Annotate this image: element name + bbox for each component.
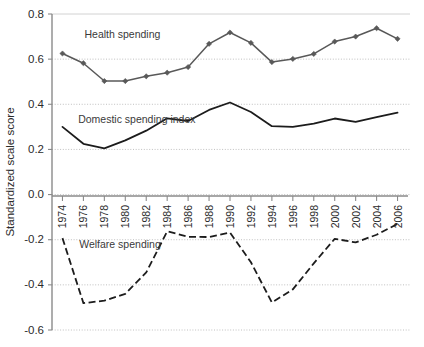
- y-axis-title: Standardized scale score: [4, 107, 16, 236]
- data-point-health-spending-2002: [353, 34, 358, 39]
- x-tick-label-1988: 1988: [203, 205, 215, 229]
- data-point-health-spending-1982: [144, 74, 149, 79]
- data-point-health-spending-1984: [165, 70, 170, 75]
- x-tick-label-1994: 1994: [266, 205, 278, 229]
- x-tick-label-2004: 2004: [371, 205, 383, 229]
- line-chart-figure: 0.80.60.40.20.0-0.2-0.4-0.6 197419761978…: [0, 0, 424, 347]
- y-tick-label--0.4: -0.4: [24, 278, 44, 290]
- gridlines-group: [52, 14, 410, 330]
- x-tick-label-2000: 2000: [329, 205, 341, 229]
- x-tick-label-1980: 1980: [119, 205, 131, 229]
- y-tick-labels-group: 0.80.60.40.20.0-0.2-0.4-0.6: [24, 8, 44, 336]
- series-label-health-spending: Health spending: [84, 28, 160, 40]
- x-tick-label-2002: 2002: [350, 205, 362, 229]
- x-tick-label-1998: 1998: [308, 205, 320, 229]
- x-tick-label-1982: 1982: [140, 205, 152, 229]
- y-tick-label--0.2: -0.2: [24, 233, 44, 245]
- x-tick-label-1996: 1996: [287, 205, 299, 229]
- x-tick-label-1984: 1984: [161, 205, 173, 229]
- chart-container: 0.80.60.40.20.0-0.2-0.4-0.6 197419761978…: [0, 0, 424, 347]
- data-point-health-spending-2004: [374, 26, 379, 31]
- series-label-domestic-spending-index: Domestic spending index: [78, 113, 196, 125]
- series-label-welfare-spending: Welfare spending: [79, 238, 161, 250]
- axes-group: [48, 14, 408, 330]
- y-tick-label-0.8: 0.8: [28, 8, 44, 20]
- y-tick-label-0.6: 0.6: [28, 53, 44, 65]
- x-tick-label-1992: 1992: [245, 205, 257, 229]
- x-tick-label-2006: 2006: [392, 205, 404, 229]
- x-tick-label-1976: 1976: [77, 205, 89, 229]
- y-tick-label--0.6: -0.6: [24, 324, 44, 336]
- axis-titles-group: Standardized scale score: [4, 107, 16, 236]
- series-line-domestic-spending-index: [62, 102, 397, 148]
- data-point-health-spending-1996: [290, 56, 295, 61]
- x-tick-label-1990: 1990: [224, 205, 236, 229]
- series-group: [60, 26, 400, 304]
- data-point-health-spending-2006: [395, 36, 400, 41]
- y-tick-label-0.4: 0.4: [28, 98, 45, 110]
- series-annotations-group: Health spendingDomestic spending indexWe…: [78, 28, 196, 250]
- series-line-welfare-spending: [62, 224, 397, 303]
- y-tick-label-0.2: 0.2: [28, 143, 44, 155]
- x-tick-labels-group: 1974197619781980198219841986198819901992…: [56, 205, 403, 229]
- x-tick-label-1974: 1974: [56, 205, 68, 229]
- data-point-health-spending-1980: [123, 78, 128, 83]
- data-point-health-spending-1974: [60, 51, 65, 56]
- y-tick-label-0.0: 0.0: [28, 188, 44, 200]
- x-tick-label-1978: 1978: [98, 205, 110, 229]
- x-tick-label-1986: 1986: [182, 205, 194, 229]
